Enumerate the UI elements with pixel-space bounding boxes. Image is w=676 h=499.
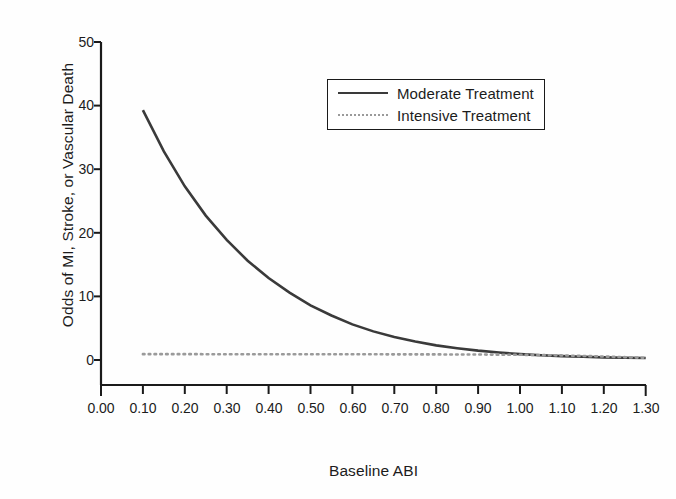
series-line-moderate-treatment	[143, 110, 646, 358]
x-tick-marks	[101, 385, 646, 396]
x-tick-label: 1.30	[620, 400, 672, 416]
legend-label: Intensive Treatment	[397, 107, 531, 124]
chart-legend: Moderate Treatment Intensive Treatment	[327, 79, 545, 130]
legend-solid-line-icon	[338, 86, 388, 100]
plot-canvas	[0, 0, 676, 499]
legend-item-intensive-treatment: Intensive Treatment	[338, 104, 531, 126]
legend-dotted-line-icon	[338, 108, 388, 122]
legend-label: Moderate Treatment	[397, 85, 534, 102]
x-axis-title: Baseline ABI	[101, 462, 646, 480]
legend-item-moderate-treatment: Moderate Treatment	[338, 82, 534, 104]
chart-figure: Odds of MI, Stroke, or Vascular Death 50…	[0, 0, 676, 499]
